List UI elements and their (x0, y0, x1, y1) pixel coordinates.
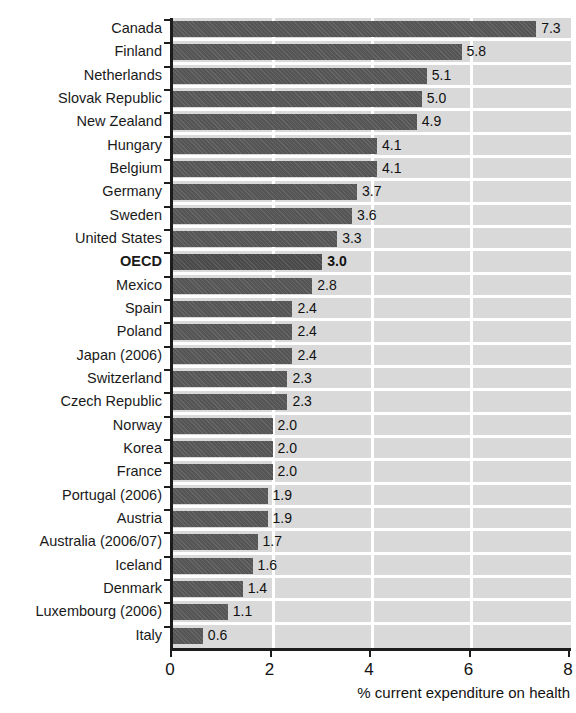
chart-row: 2.4 (173, 321, 571, 344)
y-axis-tick (164, 462, 171, 464)
x-axis-tick-label: 4 (349, 660, 389, 680)
y-axis-tick (164, 509, 171, 511)
category-label-switzerland: Switzerland (0, 370, 162, 387)
bar-value-label: 0.6 (208, 627, 227, 644)
bar-value-label: 2.4 (297, 323, 316, 340)
bar-value-label: 1.7 (263, 533, 282, 550)
bar-mexico (173, 278, 312, 294)
x-axis-tick (469, 648, 471, 657)
category-label-hungary: Hungary (0, 137, 162, 154)
y-axis-tick (164, 392, 171, 394)
bar-value-label: 1.1 (233, 603, 252, 620)
y-axis-tick (164, 556, 171, 558)
y-axis-tick (164, 276, 171, 278)
bar-iceland (173, 558, 253, 574)
chart-row: 3.7 (173, 181, 571, 204)
x-axis-tick-label: 6 (449, 660, 489, 680)
bar-portugal-2006 (173, 488, 268, 504)
bar-australia-2006-07 (173, 534, 258, 550)
bar-value-label: 3.0 (327, 253, 346, 270)
chart-row: 0.6 (173, 625, 571, 648)
y-axis-tick (164, 182, 171, 184)
category-label-netherlands: Netherlands (0, 67, 162, 84)
y-axis-tick (164, 42, 171, 44)
plot-area: 7.35.85.15.04.94.14.13.73.63.33.02.82.42… (170, 18, 571, 651)
chart-row: 4.1 (173, 135, 571, 158)
category-label-new-zealand: New Zealand (0, 113, 162, 130)
category-label-italy: Italy (0, 627, 162, 644)
y-axis-tick (164, 252, 171, 254)
bar-new-zealand (173, 114, 417, 130)
category-label-belgium: Belgium (0, 160, 162, 177)
bar-spain (173, 301, 292, 317)
category-label-france: France (0, 463, 162, 480)
y-axis-tick (164, 136, 171, 138)
chart-title (170, 0, 568, 2)
bar-france (173, 464, 273, 480)
bar-value-label: 2.0 (278, 417, 297, 434)
y-axis-tick (164, 346, 171, 348)
chart-row: 1.6 (173, 555, 571, 578)
bar-germany (173, 184, 357, 200)
bar-luxembourg-2006 (173, 604, 228, 620)
category-label-norway: Norway (0, 417, 162, 434)
category-label-luxembourg-2006: Luxembourg (2006) (0, 603, 162, 620)
chart-row: 4.1 (173, 158, 571, 181)
chart-row: 5.0 (173, 88, 571, 111)
bar-value-label: 2.0 (278, 463, 297, 480)
chart-row: 2.4 (173, 345, 571, 368)
y-axis-tick (164, 229, 171, 231)
chart-row: 2.3 (173, 391, 571, 414)
y-axis-tick (164, 626, 171, 628)
category-label-slovak-republic: Slovak Republic (0, 90, 162, 107)
bar-value-label: 5.0 (427, 90, 446, 107)
bar-japan-2006 (173, 348, 292, 364)
bar-denmark (173, 581, 243, 597)
x-axis-tick-label: 8 (548, 660, 576, 680)
x-axis-tick (369, 648, 371, 657)
bar-value-label: 7.3 (541, 20, 560, 37)
bar-value-label: 2.0 (278, 440, 297, 457)
bar-netherlands (173, 68, 427, 84)
category-label-mexico: Mexico (0, 277, 162, 294)
bar-value-label: 3.3 (342, 230, 361, 247)
chart-row: 1.7 (173, 531, 571, 554)
category-label-oecd: OECD (0, 253, 162, 270)
bar-norway (173, 418, 273, 434)
chart-row: 3.6 (173, 205, 571, 228)
category-label-austria: Austria (0, 510, 162, 527)
category-label-germany: Germany (0, 183, 162, 200)
bar-poland (173, 324, 292, 340)
bar-value-label: 4.1 (382, 137, 401, 154)
x-axis-tick (270, 648, 272, 657)
y-axis-tick (164, 579, 171, 581)
bar-value-label: 3.7 (362, 183, 381, 200)
chart-row: 3.0 (173, 251, 571, 274)
bar-value-label: 2.4 (297, 300, 316, 317)
bar-oecd (173, 254, 322, 270)
chart-row: 1.1 (173, 601, 571, 624)
bar-canada (173, 21, 536, 37)
category-label-finland: Finland (0, 43, 162, 60)
y-axis-tick (164, 416, 171, 418)
bar-value-label: 1.9 (273, 510, 292, 527)
bar-finland (173, 44, 462, 60)
bar-value-label: 2.3 (292, 370, 311, 387)
bar-czech-republic (173, 394, 287, 410)
y-axis-tick (164, 89, 171, 91)
bar-austria (173, 511, 268, 527)
bar-value-label: 3.6 (357, 207, 376, 224)
x-axis-tick (568, 648, 570, 657)
bar-slovak-republic (173, 91, 422, 107)
bar-value-label: 5.8 (467, 43, 486, 60)
bar-italy (173, 628, 203, 644)
bar-value-label: 2.3 (292, 393, 311, 410)
y-axis-tick (164, 369, 171, 371)
y-axis-tick (164, 602, 171, 604)
chart-row: 2.0 (173, 461, 571, 484)
category-label-australia-2006-07: Australia (2006/07) (0, 533, 162, 550)
bar-belgium (173, 161, 377, 177)
y-axis-tick (164, 532, 171, 534)
chart-row: 2.8 (173, 275, 571, 298)
y-axis-tick (164, 112, 171, 114)
